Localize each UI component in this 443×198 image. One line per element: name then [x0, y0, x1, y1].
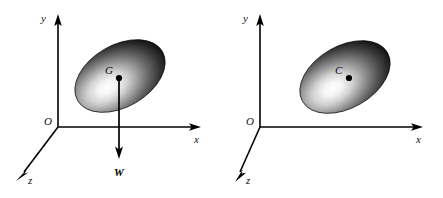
right-z-axis-line [240, 127, 260, 172]
left-center-of-gravity-dot [116, 75, 122, 81]
right-body-group [287, 26, 403, 129]
right-y-axis-label: y [242, 12, 248, 24]
left-weight-vector-label: W [114, 166, 125, 178]
right-ellipsoid-body [287, 26, 403, 129]
left-z-axis-line [24, 127, 58, 172]
figure-canvas: y x z O [0, 0, 443, 198]
left-y-axis [54, 14, 62, 127]
right-z-axis-label: z [245, 174, 251, 186]
right-x-axis [260, 123, 423, 131]
left-panel: y x z O [16, 12, 201, 186]
left-y-axis-label: y [40, 12, 46, 24]
left-origin-label: O [44, 115, 52, 127]
right-centroid-dot [346, 75, 352, 81]
right-y-axis [256, 14, 264, 127]
right-origin-label: O [246, 115, 254, 127]
left-center-of-gravity-label: G [105, 64, 113, 76]
right-centroid-label: C [335, 64, 343, 76]
right-panel: y x z O C [235, 12, 423, 186]
left-x-axis [58, 123, 201, 131]
left-z-axis-label: z [27, 174, 33, 186]
figure-root: y x z O [0, 0, 443, 198]
left-z-axis-arrowhead [16, 170, 29, 181]
left-x-axis-label: x [193, 133, 199, 145]
right-x-axis-label: x [415, 133, 421, 145]
left-z-axis [16, 127, 58, 181]
